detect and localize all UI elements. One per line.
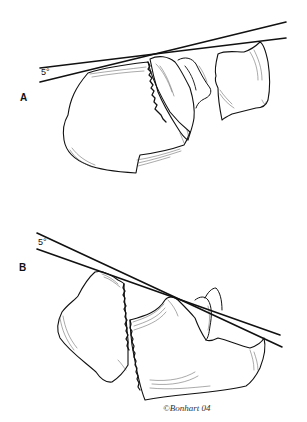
panel-b-main-bone bbox=[130, 297, 265, 400]
panel-a-drawing bbox=[40, 22, 286, 173]
panel-a-label: A bbox=[20, 92, 27, 103]
artist-signature: ©Bonhart 04 bbox=[163, 403, 211, 413]
panel-b-left-fragment bbox=[58, 271, 128, 382]
panel-b-drawing bbox=[37, 233, 282, 400]
medical-illustration: A 5° B 5° ©Bonhart 04 bbox=[0, 0, 307, 422]
panel-b-angle-label: 5° bbox=[38, 237, 47, 247]
illustration-drawing bbox=[0, 0, 307, 422]
panel-b-angle-line-steep bbox=[37, 233, 282, 347]
panel-b-angle-line-flat bbox=[37, 249, 280, 335]
panel-b-label: B bbox=[19, 262, 26, 273]
panel-a-angle-line-upper bbox=[40, 38, 286, 68]
panel-a-right-bone bbox=[215, 42, 269, 120]
panel-a-angle-label: 5° bbox=[41, 67, 50, 77]
